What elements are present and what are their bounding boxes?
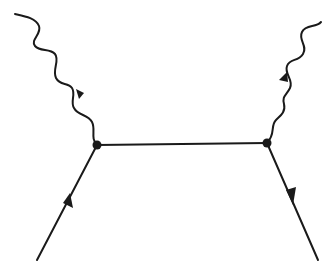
outgoing-photon-line — [267, 22, 321, 143]
photon-arrow-icon — [76, 89, 84, 99]
feynman-diagram — [0, 0, 336, 272]
internal-propagator — [97, 143, 267, 145]
fermion-arrow-down-icon — [286, 187, 296, 205]
vertex-left — [93, 141, 102, 150]
photon-arrow-icon — [279, 72, 288, 82]
vertex-right — [263, 139, 272, 148]
incoming-photon-line — [15, 14, 97, 145]
